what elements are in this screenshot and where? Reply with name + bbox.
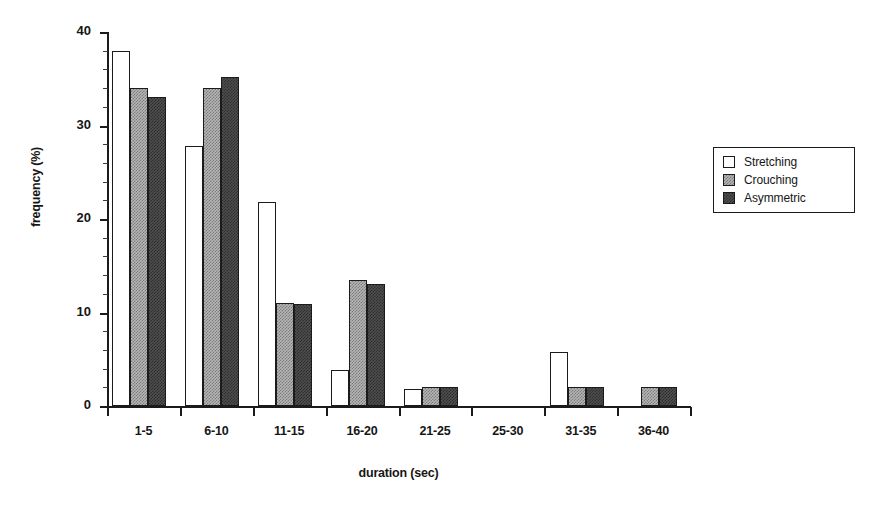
plot-area: 010203040 1-56-1011-1516-2021-2525-3031-… bbox=[107, 32, 690, 406]
y-axis-tick-minor bbox=[103, 163, 108, 164]
y-axis-tick-minor bbox=[103, 350, 108, 351]
legend-swatch-icon bbox=[723, 192, 735, 204]
x-axis-title: duration (sec) bbox=[107, 466, 690, 480]
bar bbox=[568, 387, 586, 406]
bar bbox=[130, 88, 148, 406]
y-axis-tick-minor bbox=[103, 331, 108, 332]
bar bbox=[659, 387, 677, 406]
legend-label: Crouching bbox=[744, 173, 798, 187]
x-axis-tick bbox=[617, 407, 619, 416]
bar bbox=[258, 202, 276, 406]
bar bbox=[404, 389, 422, 406]
bar bbox=[203, 88, 221, 406]
x-axis-tick bbox=[253, 407, 255, 416]
x-axis-tick bbox=[544, 407, 546, 416]
y-axis-tick-label: 20 bbox=[77, 210, 91, 225]
legend-label: Stretching bbox=[744, 155, 797, 169]
x-axis-tick bbox=[107, 407, 109, 416]
bar bbox=[148, 97, 166, 406]
legend-item: Stretching bbox=[723, 153, 848, 171]
y-axis-tick-major: 40 bbox=[100, 32, 108, 34]
bar bbox=[367, 284, 385, 406]
y-axis-tick-minor bbox=[103, 238, 108, 239]
chart-legend: StretchingCrouchingAsymmetric bbox=[713, 147, 855, 213]
bar bbox=[331, 370, 349, 406]
bar bbox=[221, 77, 239, 406]
y-axis-tick-major: 30 bbox=[100, 126, 108, 128]
x-axis-tick bbox=[690, 407, 692, 416]
y-axis-tick-minor bbox=[103, 256, 108, 257]
bar bbox=[422, 387, 440, 406]
bar-chart-figure: frequency (%) duration (sec) 010203040 1… bbox=[0, 0, 892, 514]
bar bbox=[349, 280, 367, 406]
bar bbox=[641, 387, 659, 406]
bar bbox=[185, 146, 203, 406]
y-axis-tick-minor bbox=[103, 88, 108, 89]
y-axis-tick-minor bbox=[103, 51, 108, 52]
legend-item: Asymmetric bbox=[723, 189, 848, 207]
y-axis-title: frequency (%) bbox=[29, 107, 43, 267]
y-axis-tick-minor bbox=[103, 107, 108, 108]
y-axis-tick-label: 10 bbox=[77, 304, 91, 319]
x-axis-tick bbox=[180, 407, 182, 416]
y-axis-tick-minor bbox=[103, 200, 108, 201]
y-axis-tick-minor bbox=[103, 182, 108, 183]
bar bbox=[294, 304, 312, 406]
bar bbox=[586, 387, 604, 406]
x-axis-tick bbox=[399, 407, 401, 416]
bar bbox=[550, 352, 568, 406]
y-axis-tick-major: 10 bbox=[100, 313, 108, 315]
y-axis-tick-minor bbox=[103, 275, 108, 276]
x-axis-tick-label: 36-40 bbox=[609, 424, 699, 438]
legend-label: Asymmetric bbox=[744, 191, 806, 205]
y-axis-tick-minor bbox=[103, 294, 108, 295]
y-axis-tick-label: 0 bbox=[84, 397, 91, 412]
bar bbox=[440, 387, 458, 406]
y-axis-tick-minor bbox=[103, 69, 108, 70]
y-axis-tick-major: 20 bbox=[100, 219, 108, 221]
y-axis-tick-minor bbox=[103, 387, 108, 388]
bar bbox=[112, 51, 130, 406]
legend-swatch-icon bbox=[723, 174, 735, 186]
y-axis-tick-label: 40 bbox=[77, 23, 91, 38]
bar bbox=[276, 303, 294, 406]
legend-item: Crouching bbox=[723, 171, 848, 189]
y-axis-tick-minor bbox=[103, 369, 108, 370]
y-axis-tick-minor bbox=[103, 144, 108, 145]
x-axis-tick bbox=[471, 407, 473, 416]
y-axis-tick-label: 30 bbox=[77, 117, 91, 132]
x-axis-tick bbox=[326, 407, 328, 416]
legend-swatch-icon bbox=[723, 156, 735, 168]
